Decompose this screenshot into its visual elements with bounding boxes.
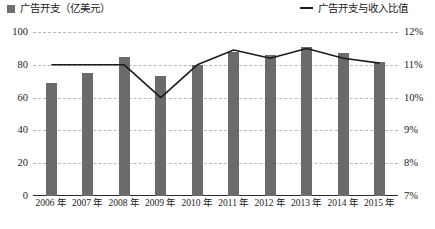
line-series-swatch-icon	[300, 7, 313, 9]
legend-item-line-series: 广告开支与收入比值	[300, 3, 408, 15]
x-axis-tick-label: 2013 年	[291, 198, 322, 209]
y-axis-left-tick-label: 80	[2, 60, 28, 70]
plot-area: 0204060801007%8%9%10%11%12%2006 年2007 年2…	[33, 32, 398, 196]
y-axis-left-tick-label: 100	[2, 27, 28, 37]
x-axis-tick-label: 2014 年	[328, 198, 359, 209]
legend-label-line-series: 广告开支与收入比值	[318, 3, 408, 15]
bar-series-swatch-icon	[7, 5, 15, 13]
y-axis-left-tick-label: 20	[2, 158, 28, 168]
x-axis-tick-label: 2009 年	[145, 198, 176, 209]
legend-label-bar-series: 广告开支（亿美元）	[20, 3, 110, 15]
y-axis-left-tick-label: 40	[2, 125, 28, 135]
x-axis-tick-label: 2006 年	[36, 198, 67, 209]
ratio-line-series	[33, 32, 398, 196]
x-axis-tick-label: 2007 年	[72, 198, 103, 209]
y-axis-right-tick-label: 10%	[404, 93, 434, 103]
chart-legend: 广告开支（亿美元） 广告开支与收入比值	[0, 0, 435, 20]
x-axis-tick-label: 2008 年	[109, 198, 140, 209]
y-axis-right-tick-label: 11%	[404, 60, 434, 70]
y-axis-left-tick-label: 60	[2, 93, 28, 103]
x-axis-tick-label: 2015 年	[364, 198, 395, 209]
y-axis-right-tick-label: 9%	[404, 125, 434, 135]
y-axis-right-tick-label: 7%	[404, 191, 434, 201]
y-axis-right-tick-label: 12%	[404, 27, 434, 37]
x-axis-tick-label: 2012 年	[255, 198, 286, 209]
advertising-expenditure-chart: 广告开支（亿美元） 广告开支与收入比值 0204060801007%8%9%10…	[0, 0, 435, 229]
legend-item-bar-series: 广告开支（亿美元）	[7, 3, 110, 15]
y-axis-left-tick-label: 0	[2, 191, 28, 201]
x-axis-tick-label: 2010 年	[182, 198, 213, 209]
x-axis-tick-label: 2011 年	[218, 198, 249, 209]
y-axis-right-tick-label: 8%	[404, 158, 434, 168]
